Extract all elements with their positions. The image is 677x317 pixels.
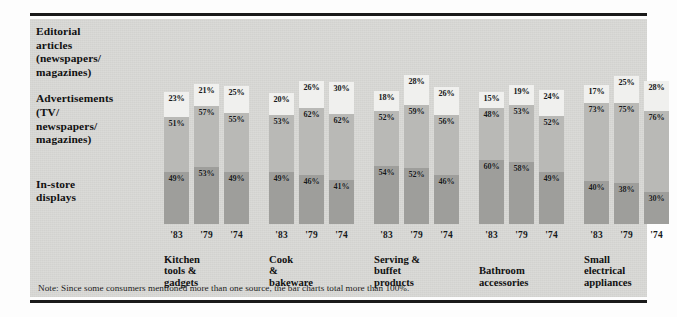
bar-value-label: 49% <box>168 172 184 183</box>
year-text: '74 <box>230 230 243 240</box>
bar-value-label: 60% <box>483 160 499 171</box>
bar-value-label: 59% <box>408 105 424 116</box>
bar-segment: 51% <box>164 117 189 172</box>
bar-group: 20%53%49%'8326%62%46%'7930%62%41%'74Cook… <box>269 19 354 297</box>
bar-segment: 26% <box>434 87 459 115</box>
year-tick-label: '79 <box>194 224 219 242</box>
bar-value-label: 52% <box>378 111 394 122</box>
stacked-bar[interactable]: 20%53%49% <box>269 93 294 224</box>
year-tick-label: '74 <box>434 224 459 242</box>
bar-value-label: 52% <box>408 168 424 179</box>
bar-segment: 52% <box>404 168 429 224</box>
bar-value-label: 49% <box>543 172 559 183</box>
year-text: '74 <box>650 230 663 240</box>
legend-item-editorial: Editorial articles (newspapers/ magazine… <box>36 25 154 79</box>
bar-segment: 41% <box>329 180 354 224</box>
bar-value-label: 21% <box>198 84 214 95</box>
bar-segment: 57% <box>194 106 219 167</box>
bar-value-label: 49% <box>228 172 244 183</box>
bar-value-label: 56% <box>438 115 454 126</box>
bar-segment: 76% <box>644 111 669 192</box>
year-text: '79 <box>515 230 528 240</box>
stacked-bar[interactable]: 18%52%54% <box>374 91 399 224</box>
year-text: '74 <box>440 230 453 240</box>
chart-note: Note: Since some consumers mentioned mor… <box>38 283 639 293</box>
stacked-bar[interactable]: 23%51%49% <box>164 92 189 224</box>
category-label-line: tools & <box>164 265 256 277</box>
year-tick-label: '83 <box>164 224 189 242</box>
bar-segment: 73% <box>584 103 609 181</box>
year-tick-label: '83 <box>374 224 399 242</box>
bar-segment: 46% <box>434 175 459 224</box>
chart-figure: Editorial articles (newspapers/ magazine… <box>0 0 677 317</box>
bar-value-label: 53% <box>513 105 529 116</box>
bar-group: 15%48%60%'8319%53%58%'7924%52%49%'74Bath… <box>479 19 564 297</box>
bar-value-label: 55% <box>228 113 244 124</box>
category-label-line: Small <box>584 254 676 266</box>
stacked-bar[interactable]: 24%52%49% <box>539 90 564 224</box>
bar-group: 18%52%54%'8328%59%52%'7926%56%46%'74Serv… <box>374 19 459 297</box>
bar-segment: 38% <box>614 183 639 224</box>
bar-value-label: 41% <box>333 180 349 191</box>
stacked-bar[interactable]: 28%59%52% <box>404 75 429 224</box>
stacked-bar[interactable]: 26%56%46% <box>434 87 459 224</box>
legend: Editorial articles (newspapers/ magazine… <box>36 25 154 205</box>
bar-value-label: 46% <box>438 175 454 186</box>
stacked-bar[interactable]: 26%62%46% <box>299 81 324 224</box>
stacked-bar[interactable]: 25%55%49% <box>224 86 249 224</box>
bar-segment: 52% <box>539 116 564 172</box>
bar-segment: 59% <box>404 105 429 168</box>
bar-group: 23%51%49%'8321%57%53%'7925%55%49%'74Kitc… <box>164 19 249 297</box>
bar-value-label: 19% <box>513 85 529 96</box>
year-text: '79 <box>410 230 423 240</box>
stacked-bar[interactable]: 30%62%41% <box>329 82 354 224</box>
stacked-bar[interactable]: 28%76%30% <box>644 81 669 224</box>
year-text: '83 <box>590 230 603 240</box>
bar-value-label: 62% <box>333 114 349 125</box>
bar-segment: 52% <box>374 111 399 167</box>
bar-value-label: 26% <box>303 81 319 92</box>
bar-segment: 28% <box>644 81 669 111</box>
plot-area: 23%51%49%'8321%57%53%'7925%55%49%'74Kitc… <box>156 19 647 297</box>
year-text: '79 <box>620 230 633 240</box>
stacked-bar[interactable]: 17%73%40% <box>584 85 609 224</box>
bar-value-label: 75% <box>618 103 634 114</box>
bar-segment: 62% <box>299 108 324 174</box>
bar-value-label: 62% <box>303 108 319 119</box>
year-text: '74 <box>545 230 558 240</box>
bar-value-label: 23% <box>168 92 184 103</box>
category-label-line: buffet <box>374 265 466 277</box>
stacked-bar[interactable]: 21%57%53% <box>194 84 219 224</box>
bar-value-label: 24% <box>543 90 559 101</box>
legend-editorial-line3: (newspapers/ <box>36 52 154 66</box>
year-text: '79 <box>305 230 318 240</box>
legend-editorial-line2: articles <box>36 39 154 53</box>
bar-segment: 75% <box>614 103 639 183</box>
bar-value-label: 28% <box>408 75 424 86</box>
year-text: '83 <box>380 230 393 240</box>
bar-segment: 48% <box>479 108 504 159</box>
stacked-bar[interactable]: 19%53%58% <box>509 85 534 224</box>
bar-value-label: 53% <box>198 167 214 178</box>
bar-value-label: 30% <box>648 192 664 203</box>
stacked-bar[interactable]: 25%75%38% <box>614 76 639 224</box>
bar-segment: 55% <box>224 113 249 172</box>
bar-segment: 49% <box>164 172 189 224</box>
bar-segment: 18% <box>374 91 399 110</box>
legend-item-advertisements: Advertisements (TV/ newspapers/ magazine… <box>36 92 154 146</box>
bar-segment: 25% <box>224 86 249 113</box>
legend-ads-line4: magazines) <box>36 133 154 147</box>
bar-group: 17%73%40%'8325%75%38%'7928%76%30%'74Smal… <box>584 19 669 297</box>
category-label-line: & <box>269 265 361 277</box>
year-text: '83 <box>485 230 498 240</box>
bar-segment: 58% <box>509 162 534 224</box>
bar-segment: 53% <box>509 105 534 162</box>
bar-segment: 54% <box>374 166 399 224</box>
bar-value-label: 38% <box>618 183 634 194</box>
bar-value-label: 15% <box>483 92 499 103</box>
legend-instore-line2: displays <box>36 191 154 205</box>
stacked-bar[interactable]: 15%48%60% <box>479 92 504 224</box>
bar-value-label: 76% <box>648 111 664 122</box>
bar-segment: 20% <box>269 93 294 114</box>
year-tick-label: '74 <box>539 224 564 242</box>
